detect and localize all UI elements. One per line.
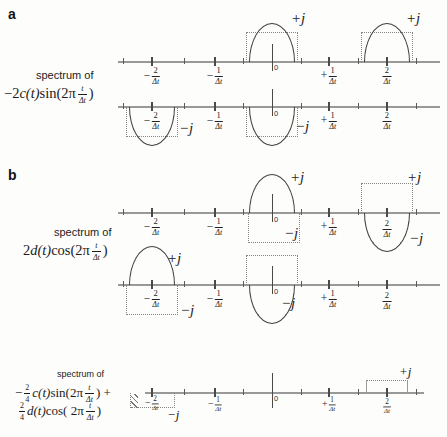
tick-label-pos1: +1Δt [321, 217, 337, 237]
tick-mark [301, 281, 302, 287]
tick-mark [301, 209, 302, 215]
tick-mark [184, 281, 185, 287]
minus-j-label: −j [295, 118, 309, 135]
tick-mark [416, 103, 417, 109]
tick-label-neg1: −1Δt [208, 396, 222, 413]
formula-sign: − [15, 385, 22, 401]
tick-label-neg2: −2Δt [144, 66, 160, 86]
tick-label-pos2: 2Δt [383, 291, 392, 311]
tick-label-pos1: +1Δt [321, 66, 337, 86]
spectral-lobe [249, 23, 295, 62]
tick-mark [416, 281, 417, 287]
tick-label-neg1: −1Δt [207, 289, 223, 309]
formula-trig: sin(2π [40, 85, 76, 102]
panel-a-formula: −2c(t)sin(2πtΔt) [4, 83, 94, 104]
formula-function: c(t) [19, 85, 39, 102]
tick-label-pos2: 2Δt [383, 398, 391, 415]
tick-mark [243, 58, 244, 64]
tick-label-neg2: −2Δt [144, 217, 160, 237]
tick-mark [243, 389, 244, 395]
tick-mark [386, 280, 388, 289]
spectral-lobe [249, 107, 295, 146]
minus-j-label: −j [409, 230, 423, 247]
formula-arg-fraction: tΔt [78, 84, 87, 105]
formula-arg-fraction: tΔt [86, 401, 95, 422]
plus-j-label: +j [167, 250, 181, 267]
tick-mark [358, 103, 359, 109]
tick-mark [151, 208, 153, 217]
tick-mark [184, 103, 185, 109]
tick-mark [123, 281, 124, 287]
minus-j-label: −j [281, 295, 295, 312]
tick-label-zero: 0 [274, 63, 278, 72]
spectral-lobe [364, 23, 410, 62]
plus-j-label: +j [290, 169, 304, 186]
figure-root: a b spectrum of −2c(t)sin(2πtΔt) 0 +j +j… [0, 0, 447, 437]
tick-mark [358, 389, 359, 395]
tick-mark [214, 57, 216, 66]
spectral-lobe [249, 174, 295, 213]
minus-j-label: −j [180, 302, 194, 319]
panel-a-letter: a [8, 6, 16, 22]
tick-mark [416, 389, 417, 395]
panel-b-letter: b [8, 167, 17, 183]
tick-label-neg1: −1Δt [207, 111, 223, 131]
formula-function: c(t) [32, 385, 50, 401]
formula-arg-fraction: tΔt [92, 241, 101, 262]
phantom-rect [366, 380, 408, 393]
formula-close: ) + [96, 385, 111, 401]
tick-label-pos1: +1Δt [322, 396, 336, 413]
tick-label-zero: 0 [274, 394, 278, 403]
tick-label-neg2: −2Δt [144, 111, 160, 131]
formula-close: ) [97, 403, 101, 419]
tick-mark [243, 103, 244, 109]
plus-j-label: +j [406, 10, 420, 27]
tick-label-pos1: +1Δt [321, 289, 337, 309]
tick-label-neg2: −2Δt [144, 289, 160, 309]
tick-mark [416, 209, 417, 215]
tick-mark [328, 208, 330, 217]
phantom-rect [246, 255, 298, 285]
formula-coefficient: 2 [23, 242, 30, 259]
formula-trig: cos(2π [51, 242, 90, 259]
formula-coefficient-fraction: 24 [19, 401, 25, 422]
plus-j-label: +j [407, 169, 421, 186]
plus-j-label: +j [291, 10, 305, 27]
formula-trig: cos( 2π [46, 403, 84, 419]
tick-mark [328, 102, 330, 111]
tick-mark [328, 57, 330, 66]
tick-mark [358, 58, 359, 64]
panel-a-caption: spectrum of [36, 69, 93, 81]
formula-function: d(t) [30, 242, 51, 259]
tick-mark [301, 389, 302, 395]
tick-mark [243, 281, 244, 287]
tick-label-pos2: 2Δt [383, 219, 392, 239]
formula-close: ) [103, 242, 108, 259]
panel-c-caption: spectrum of [57, 369, 104, 379]
hatch-mark [131, 394, 138, 408]
tick-label-neg1: −1Δt [207, 217, 223, 237]
tick-mark [358, 281, 359, 287]
minus-j-label: −j [284, 225, 298, 242]
tick-label-pos1: +1Δt [321, 111, 337, 131]
tick-mark [243, 209, 244, 215]
tick-mark [184, 58, 185, 64]
formula-close: ) [89, 85, 94, 102]
formula-function: d(t) [27, 403, 46, 419]
minus-j-label: −j [179, 120, 193, 137]
tick-mark [416, 58, 417, 64]
tick-mark [328, 280, 330, 289]
tick-label-pos2: 2Δt [383, 111, 392, 131]
tick-mark [123, 58, 124, 64]
formula-trig: sin(2π [50, 385, 83, 401]
phantom-rect [361, 183, 413, 213]
tick-mark [123, 103, 124, 109]
tick-mark [358, 209, 359, 215]
panel-b-formula: 2d(t)cos(2πtΔt) [23, 240, 108, 261]
formula-coefficient: −2 [4, 85, 19, 102]
tick-mark [151, 57, 153, 66]
tick-mark [123, 209, 124, 215]
tick-mark [184, 389, 185, 395]
panel-c-formula-line2: 24d(t)cos( 2πtΔt) [17, 400, 101, 421]
tick-mark [214, 102, 216, 111]
